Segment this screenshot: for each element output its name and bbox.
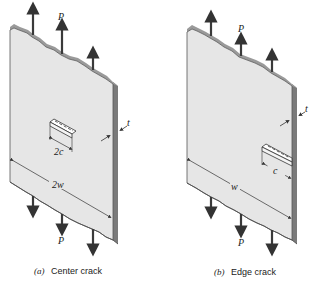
panel-a-center-crack: P P 2c t 2w (a) Center cr: [10, 8, 130, 277]
load-label-top: P: [57, 11, 64, 22]
thickness-label: t: [305, 103, 308, 114]
caption-b: (b) Edge crack: [214, 261, 276, 278]
caption-letter: (b): [214, 267, 225, 277]
plate-side-face: [292, 84, 297, 244]
panel-b-edge-crack: P P c t w (b) Edge crack: [187, 16, 308, 278]
caption-text: Edge crack: [231, 267, 277, 277]
thickness-label: t: [127, 117, 130, 128]
caption-a: (a) Center crack: [34, 260, 102, 277]
plate-side-face: [113, 82, 118, 244]
crack-length-label: c: [273, 165, 278, 176]
plate-front-face: [187, 29, 292, 240]
width-label: w: [231, 181, 238, 192]
caption-letter: (a): [34, 266, 45, 276]
caption-text: Center crack: [51, 266, 103, 276]
load-label-top: P: [237, 23, 244, 34]
load-label-bottom: P: [237, 237, 244, 248]
plate-front-face: [10, 28, 113, 240]
crack-length-label: 2c: [54, 146, 64, 157]
fracture-specimens-diagram: P P 2c t 2w (a) Center cr: [0, 0, 321, 285]
width-label: 2w: [52, 179, 64, 190]
load-label-bottom: P: [57, 235, 64, 246]
